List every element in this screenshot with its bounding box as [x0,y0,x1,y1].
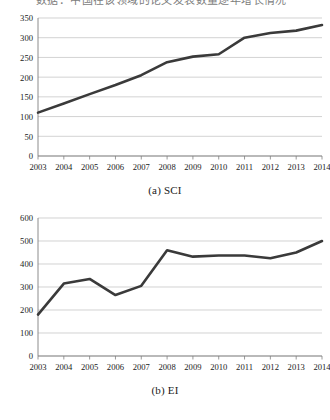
x-axis-tick-label: 2006 [107,362,125,372]
caption-ei: (b) EI [0,384,330,396]
x-axis-tick-label: 2014 [313,162,330,172]
y-axis-tick-label: 200 [20,305,33,315]
x-axis-tick-label: 2008 [158,362,175,372]
x-axis-tick-label: 2013 [288,162,305,172]
data-series-line [38,25,322,113]
x-axis-tick-label: 2007 [133,362,151,372]
x-axis-tick-label: 2003 [29,362,46,372]
plot-area-ei: 0100200300400500600200320042005200620072… [0,208,330,383]
y-axis-tick-label: 150 [20,92,33,102]
x-axis-tick-label: 2004 [55,162,73,172]
x-axis-tick-label: 2008 [158,162,175,172]
y-axis-tick-label: 400 [20,259,33,269]
y-axis-tick-label: 500 [20,236,33,246]
y-axis-tick-label: 600 [20,213,33,223]
x-axis-tick-label: 2011 [236,162,253,172]
figure-page: 数据：中国在该领域的论文发表数量逐年增长情况 05010015020025030… [0,0,330,420]
x-axis-tick-label: 2005 [81,362,98,372]
y-axis-tick-label: 300 [20,282,33,292]
y-axis-tick-label: 300 [20,33,33,43]
line-chart-sci: 0501001502002503003502003200420052006200… [0,8,330,183]
x-axis-tick-label: 2010 [210,362,227,372]
x-axis-tick-label: 2009 [184,162,201,172]
x-axis-tick-label: 2012 [262,162,279,172]
x-axis-tick-label: 2012 [262,362,279,372]
y-axis-tick-label: 100 [20,112,33,122]
x-axis-tick-label: 2011 [236,362,253,372]
x-axis-tick-label: 2007 [133,162,151,172]
x-axis-tick-label: 2006 [107,162,125,172]
cut-off-heading-text: 数据：中国在该领域的论文发表数量逐年增长情况 [36,0,287,7]
x-axis-tick-label: 2003 [29,162,46,172]
y-axis-tick-label: 100 [20,328,33,338]
figure-ei: 0100200300400500600200320042005200620072… [0,208,330,413]
y-axis-tick-label: 0 [29,151,33,161]
x-axis-tick-label: 2005 [81,162,98,172]
y-axis-tick-label: 250 [20,53,33,63]
plot-area-sci: 0501001502002503003502003200420052006200… [0,8,330,183]
x-axis-tick-label: 2014 [313,362,330,372]
x-axis-tick-label: 2010 [210,162,227,172]
line-chart-ei: 0100200300400500600200320042005200620072… [0,208,330,383]
caption-sci: (a) SCI [0,184,330,196]
x-axis-tick-label: 2009 [184,362,201,372]
figure-sci: 0501001502002503003502003200420052006200… [0,8,330,208]
x-axis-tick-label: 2004 [55,362,73,372]
y-axis-tick-label: 50 [24,132,33,142]
y-axis-tick-label: 350 [20,13,33,23]
x-axis-tick-label: 2013 [288,362,305,372]
data-series-line [38,241,322,315]
y-axis-tick-label: 200 [20,73,33,83]
y-axis-tick-label: 0 [29,351,33,361]
